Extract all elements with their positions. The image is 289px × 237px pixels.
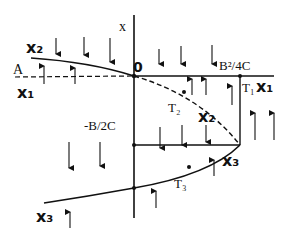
x3-curve [44,145,240,203]
point-t3: T₃ [174,176,186,191]
label-b2-4c: B²/4C [219,58,250,73]
t2-dot [182,90,186,94]
x3-axis-dot [132,186,136,190]
x2-dashed-curve [134,76,240,145]
label-neg-b-2c: -B/2C [84,118,116,133]
label-a: A [13,62,24,77]
neg-b-2c-dot [132,143,136,147]
t1-dot [238,74,242,78]
t3-dot [187,165,191,169]
x2-left-curve [31,58,134,76]
branch-x3-right: x₃ [222,151,239,170]
point-t2: T₂ [168,100,180,115]
branch-x3-left: x₃ [36,207,53,226]
axis-label: x [119,19,126,34]
branch-x1-right: x₁ [256,77,273,96]
bifurcation-diagram: x [0,0,289,237]
branch-x1-left: x₁ [17,83,34,102]
branch-x2-left: x₂ [26,38,43,57]
point-t1: T₁ [242,80,254,95]
branch-x2-mid: x₂ [198,107,215,126]
origin-label: 0 [133,59,143,75]
